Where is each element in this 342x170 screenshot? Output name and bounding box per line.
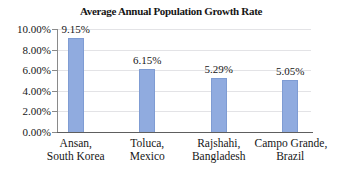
- category-label-line: Campo Grande,: [255, 137, 327, 150]
- bar-value-label: 6.15%: [133, 54, 161, 66]
- bar: [282, 80, 298, 132]
- bar: [68, 38, 84, 132]
- category-label-line: Bangladesh: [183, 150, 255, 163]
- x-axis-line: [57, 132, 313, 133]
- category-label: Campo Grande,Brazil: [255, 137, 327, 163]
- category-label-line: South Korea: [40, 150, 112, 163]
- category-label-line: Toluca,: [112, 137, 184, 150]
- x-axis-category-labels: Ansan,South KoreaToluca,MexicoRajshahi,B…: [40, 137, 326, 165]
- category-label: Toluca,Mexico: [112, 137, 184, 163]
- chart-title: Average Annual Population Growth Rate: [0, 4, 342, 18]
- bar-value-label: 5.29%: [205, 63, 233, 75]
- bar: [139, 69, 155, 132]
- population-growth-bar-chart: Average Annual Population Growth Rate 0.…: [0, 0, 342, 170]
- bar: [211, 78, 227, 132]
- category-label-line: Brazil: [255, 150, 327, 163]
- bars-layer: 9.15%6.15%5.29%5.05%: [40, 29, 326, 132]
- category-label-line: Mexico: [112, 150, 184, 163]
- category-label: Ansan,South Korea: [40, 137, 112, 163]
- category-label: Rajshahi,Bangladesh: [183, 137, 255, 163]
- category-label-line: Ansan,: [40, 137, 112, 150]
- category-label-line: Rajshahi,: [183, 137, 255, 150]
- bar-value-label: 5.05%: [276, 65, 304, 77]
- bar-value-label: 9.15%: [62, 23, 90, 35]
